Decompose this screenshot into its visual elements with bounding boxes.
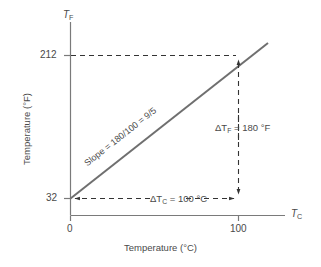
delta-tc-prefix: ΔT [150, 193, 162, 204]
x-tick-label-100: 100 [230, 224, 247, 234]
y-tick-label-32: 32 [46, 193, 57, 203]
delta-tc-label: ΔTC = 100 °C [150, 194, 207, 205]
temperature-conversion-chart: TF TC 212 32 0 100 Temperature (°F) Temp… [0, 0, 321, 267]
x-axis-symbol-subscript: C [297, 212, 302, 221]
delta-tf-label: ΔTF = 180 °F [215, 123, 270, 134]
chart-canvas [0, 0, 321, 267]
x-axis-title: Temperature (°C) [124, 243, 197, 253]
y-axis-symbol-subscript: F [69, 13, 73, 22]
y-tick-label-212: 212 [40, 50, 57, 60]
delta-tf-prefix: ΔT [215, 122, 227, 133]
y-axis-title: Temperature (°F) [22, 93, 32, 165]
delta-tc-suffix: = 100 °C [167, 193, 207, 204]
delta-tf-suffix: = 180 °F [231, 122, 270, 133]
x-axis-symbol: TC [291, 209, 302, 220]
x-tick-label-0: 0 [67, 224, 73, 234]
y-axis-symbol: TF [63, 10, 74, 21]
